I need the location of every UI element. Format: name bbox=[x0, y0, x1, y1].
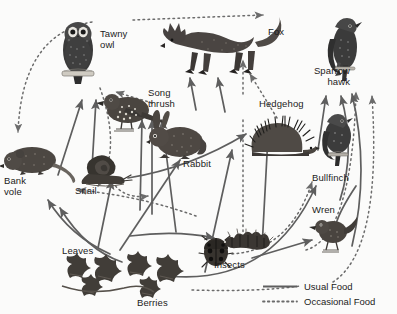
edge-bank-vole-tawny-owl bbox=[58, 100, 82, 175]
label-hedgehog: Hedgehog bbox=[259, 98, 304, 109]
wren-illustration bbox=[309, 217, 357, 252]
label-bullfinch: Bullfinch bbox=[312, 172, 349, 183]
label-song-thrush: Song thrush bbox=[148, 87, 175, 109]
snail-illustration bbox=[82, 155, 132, 186]
caterpillar-illustration bbox=[224, 229, 273, 250]
label-berries: Berries bbox=[137, 297, 168, 308]
edge-bullfinch-wren-link bbox=[336, 186, 356, 224]
occasional-food-line-swatch bbox=[262, 297, 298, 306]
label-snail: Snail bbox=[75, 185, 97, 196]
edge-leaves-insects bbox=[130, 233, 214, 238]
legend-item-occasional-food: Occasional Food bbox=[262, 294, 392, 309]
leaves-berries-illustration bbox=[62, 251, 184, 298]
legend-label-usual-food: Usual Food bbox=[304, 279, 353, 294]
label-sparrow-hawk: Sparrow hawk bbox=[296, 65, 350, 87]
legend: Usual Food Occasional Food bbox=[262, 279, 392, 309]
fox-illustration bbox=[160, 17, 281, 75]
hedgehog-illustration bbox=[245, 116, 320, 156]
food-web-organisms bbox=[0, 17, 362, 298]
tawny-owl-illustration bbox=[62, 22, 94, 84]
food-web-canvas bbox=[0, 0, 397, 314]
edge-leaves-snail bbox=[98, 180, 112, 248]
edge-bank-vole-fox bbox=[218, 78, 225, 112]
usual-food-line-swatch bbox=[262, 282, 298, 291]
label-rabbit: Rabbit bbox=[183, 158, 211, 169]
label-leaves: Leaves bbox=[62, 245, 93, 256]
legend-item-usual-food: Usual Food bbox=[262, 279, 392, 294]
edge-insects-hedgehog bbox=[262, 136, 268, 248]
label-wren: Wren bbox=[312, 204, 335, 215]
label-insects: Insects bbox=[214, 259, 245, 270]
legend-label-occasional-food: Occasional Food bbox=[304, 294, 375, 309]
label-tawny-owl: Tawny owl bbox=[100, 28, 127, 50]
edge-tawny-owl-fox bbox=[133, 15, 263, 20]
edge-hedgehog-fox bbox=[250, 74, 277, 118]
rabbit-illustration bbox=[146, 110, 206, 159]
label-bank-vole: Bank vole bbox=[4, 175, 26, 197]
label-fox: Fox bbox=[268, 26, 284, 37]
edge-rabbit-fox bbox=[190, 78, 196, 110]
food-web-diagram: Tawny owl Fox Sparrow hawk Song thrush H… bbox=[0, 0, 397, 314]
